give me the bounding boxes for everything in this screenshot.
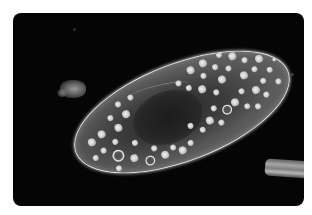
vacuole [215, 51, 223, 59]
vacuole [129, 153, 139, 163]
vacuole [160, 150, 170, 160]
vacuole [251, 65, 259, 73]
vacuole [212, 89, 220, 97]
vacuole [211, 63, 219, 71]
vacuole [111, 148, 127, 164]
vacuole [205, 115, 215, 125]
vacuole [92, 154, 100, 162]
vacuole [254, 103, 262, 111]
vacuole [218, 119, 226, 127]
vacuole [262, 91, 270, 99]
vacuole [266, 66, 274, 74]
vacuole [200, 72, 208, 80]
vacuole [243, 102, 251, 110]
vacuole [239, 70, 249, 80]
vacuole [198, 58, 208, 68]
vacuole [100, 147, 108, 155]
rod-fragment [264, 158, 304, 178]
speck [73, 28, 76, 31]
vacuole [227, 51, 237, 61]
vacuole [187, 139, 195, 147]
vacuole [87, 137, 97, 147]
vacuole [225, 65, 233, 73]
vacuole [259, 77, 267, 85]
vacuole [111, 138, 119, 146]
vacuole [197, 84, 207, 94]
vacuole [210, 104, 218, 112]
vacuole [238, 87, 246, 95]
left-debris-small [57, 89, 67, 97]
vacuole [241, 56, 249, 64]
vacuole [121, 109, 131, 119]
vacuole [150, 145, 158, 153]
vacuole [96, 129, 106, 139]
vacuole [272, 57, 277, 62]
micrograph-frame [13, 13, 304, 206]
vacuole [115, 164, 123, 172]
vacuole [178, 145, 188, 155]
vacuole [185, 84, 193, 92]
vacuole [199, 126, 207, 134]
vacuole [251, 85, 261, 95]
vacuole [185, 65, 195, 75]
vacuole [254, 54, 264, 64]
speck [291, 73, 294, 76]
vacuole [144, 154, 157, 167]
vacuole [114, 101, 122, 109]
vacuole [217, 74, 227, 84]
vacuole [169, 144, 177, 152]
vacuole [113, 123, 123, 133]
vacuole [107, 114, 115, 122]
vacuole [275, 78, 283, 86]
vacuole [131, 139, 139, 147]
